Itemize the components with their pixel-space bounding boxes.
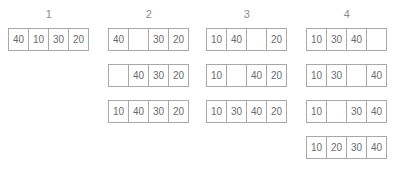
array-cell: 20 — [169, 29, 189, 51]
array-cell: 40 — [247, 101, 267, 123]
array-cell: 20 — [327, 137, 347, 159]
array-cell: 20 — [267, 29, 287, 51]
array-row: 103040 — [306, 100, 387, 123]
array-cell: 10 — [207, 65, 227, 87]
insertion-sort-diagram: 1401030202403020403020104030203104020104… — [0, 0, 402, 174]
array-row: 40103020 — [8, 28, 89, 51]
array-cell: 40 — [347, 29, 367, 51]
column-header-number: 3 — [206, 8, 288, 20]
array-row: 10403020 — [108, 100, 189, 123]
array-cell: 30 — [227, 101, 247, 123]
array-cell: 40 — [367, 101, 387, 123]
array-cell: 10 — [29, 29, 49, 51]
array-cell: 20 — [169, 65, 189, 87]
array-cell: 30 — [347, 137, 367, 159]
array-row: 103040 — [306, 64, 387, 87]
array-cell: 10 — [109, 101, 129, 123]
array-cell: 30 — [149, 65, 169, 87]
array-cell: 10 — [307, 65, 327, 87]
array-cell: 30 — [327, 65, 347, 87]
array-row: 10203040 — [306, 136, 387, 159]
array-row: 104020 — [206, 28, 287, 51]
array-cell: 40 — [9, 29, 29, 51]
array-cell: 30 — [327, 29, 347, 51]
array-cell: 20 — [169, 101, 189, 123]
array-cell: 10 — [307, 101, 327, 123]
array-cell-empty — [347, 65, 367, 87]
array-cell-empty — [367, 29, 387, 51]
array-cell: 30 — [149, 101, 169, 123]
array-cell: 20 — [267, 101, 287, 123]
array-cell: 40 — [247, 65, 267, 87]
array-row: 403020 — [108, 64, 189, 87]
array-cell-empty — [109, 65, 129, 87]
column-header-number: 1 — [8, 8, 90, 20]
array-cell: 40 — [367, 65, 387, 87]
array-cell: 10 — [307, 29, 327, 51]
array-cell: 20 — [69, 29, 89, 51]
array-row: 10304020 — [206, 100, 287, 123]
array-cell: 10 — [307, 137, 327, 159]
array-cell: 40 — [227, 29, 247, 51]
array-cell: 30 — [149, 29, 169, 51]
array-row: 104020 — [206, 64, 287, 87]
column-header-number: 4 — [306, 8, 388, 20]
array-cell: 10 — [207, 29, 227, 51]
array-cell: 30 — [49, 29, 69, 51]
array-cell: 40 — [129, 65, 149, 87]
array-cell-empty — [129, 29, 149, 51]
array-cell: 40 — [109, 29, 129, 51]
array-cell: 10 — [207, 101, 227, 123]
column-header-number: 2 — [108, 8, 190, 20]
array-cell: 40 — [129, 101, 149, 123]
array-cell-empty — [327, 101, 347, 123]
array-cell: 40 — [367, 137, 387, 159]
array-row: 103040 — [306, 28, 387, 51]
array-row: 403020 — [108, 28, 189, 51]
array-cell: 20 — [267, 65, 287, 87]
array-cell-empty — [227, 65, 247, 87]
array-cell: 30 — [347, 101, 367, 123]
array-cell-empty — [247, 29, 267, 51]
